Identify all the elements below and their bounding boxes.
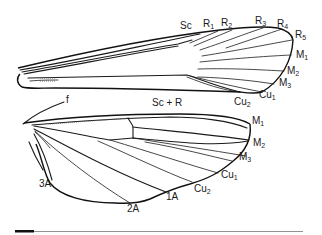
hindwing-vein-m1 (133, 127, 249, 140)
forewing: Sc R1 R2 R3 R4 R5 M1 M2 M3 Cu1 Cu2 (18, 15, 309, 108)
forewing-label-cu1: Cu1 (259, 89, 276, 101)
scale-bar-thick-segment (15, 230, 34, 233)
forewing-label-r2: R2 (221, 17, 232, 29)
forewing-vein-sc (20, 34, 200, 70)
forewing-label-m2: M2 (287, 65, 299, 77)
wing-venation-diagram: Sc R1 R2 R3 R4 R5 M1 M2 M3 Cu1 Cu2 (0, 0, 322, 235)
hindwing-label-m1: M1 (252, 115, 264, 127)
forewing-vein-r5 (202, 40, 292, 56)
hindwing-label-sc-r: Sc + R (152, 97, 182, 108)
forewing-vein-m1 (200, 55, 291, 62)
hindwing-label-cu2: Cu2 (194, 183, 211, 195)
hindwing-label-2a: 2A (127, 203, 140, 214)
hindwing: f Sc + R M1 M2 M3 Cu1 Cu2 1A 2A 3A (23, 94, 265, 214)
forewing-label-sc: Sc (180, 20, 192, 31)
hindwing-vein-3a (34, 134, 52, 180)
hindwing-label-m3: M3 (239, 151, 251, 163)
hindwing-label-f: f (66, 94, 69, 105)
forewing-label-r5: R5 (295, 29, 306, 41)
forewing-vein-r4 (226, 29, 282, 48)
hindwing-vein-cu-stem (34, 126, 133, 140)
hindwing-discal-cell-inner (128, 118, 133, 138)
forewing-vein-r-stem (22, 40, 192, 72)
forewing-label-cu2: Cu2 (234, 96, 251, 108)
forewing-vein-m2 (198, 69, 284, 71)
scale-bar (15, 230, 303, 233)
hindwing-label-3a: 3A (39, 178, 52, 189)
forewing-label-r4: R4 (277, 18, 288, 30)
hindwing-label-cu1: Cu1 (221, 169, 238, 181)
forewing-label-r1: R1 (203, 18, 214, 30)
forewing-label-m1: M1 (296, 49, 308, 61)
forewing-outline (18, 27, 293, 93)
hindwing-label-1a: 1A (166, 191, 179, 202)
hindwing-label-m2: M2 (253, 137, 265, 149)
hindwing-vein-cu2 (98, 141, 192, 182)
hindwing-vein-m2b (133, 138, 246, 156)
hindwing-vein-cu1 (110, 140, 218, 173)
forewing-label-r3: R3 (255, 15, 266, 27)
forewing-label-m3: M3 (279, 77, 291, 89)
